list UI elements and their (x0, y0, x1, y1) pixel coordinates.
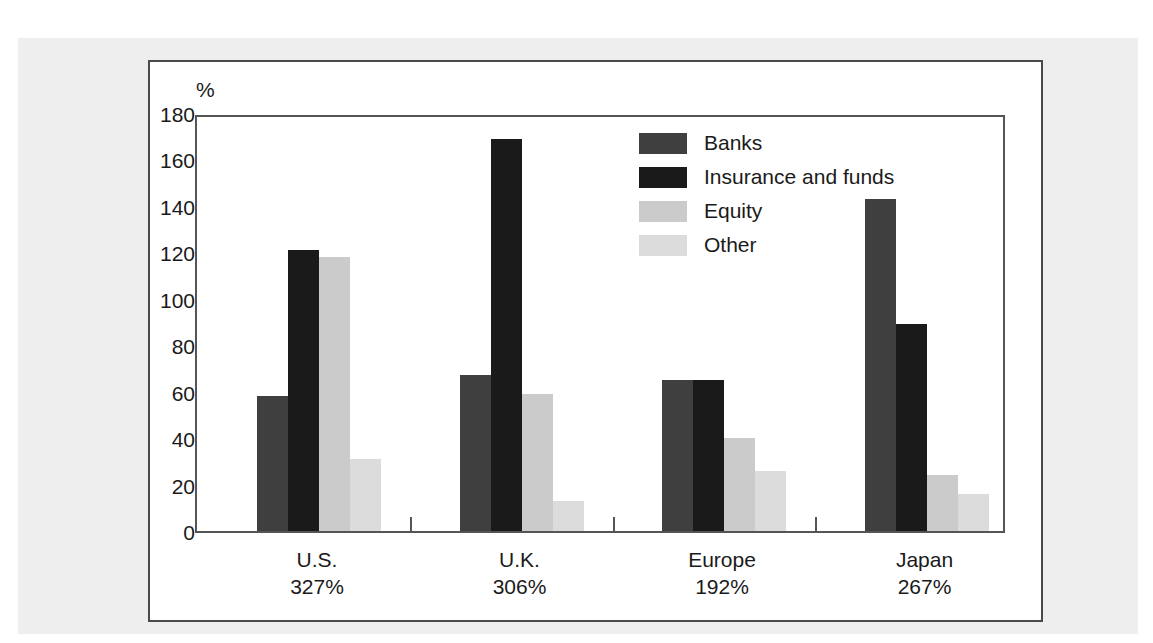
legend-item: Other (639, 228, 939, 262)
y-axis-tick-label: 40 (151, 428, 195, 452)
x-axis-separator-tick (613, 517, 615, 531)
y-axis-tick-label: 180 (151, 103, 195, 127)
legend-item: Banks (639, 126, 939, 160)
bar (522, 394, 553, 531)
y-axis-tick-label: 140 (151, 196, 195, 220)
bar (350, 459, 381, 531)
bar (288, 250, 319, 531)
bar (896, 324, 927, 531)
bar (319, 257, 350, 531)
x-axis-group-name: U.K. (430, 547, 610, 574)
bar (755, 471, 786, 531)
y-axis-tick-label: 160 (151, 149, 195, 173)
y-axis-tick-label: 0 (151, 521, 195, 545)
legend-label: Other (704, 233, 757, 257)
x-axis-separator-tick (410, 517, 412, 531)
x-axis-group-total: 192% (632, 574, 812, 601)
legend-item: Equity (639, 194, 939, 228)
bar (257, 396, 288, 531)
y-axis-unit-label: % (196, 78, 215, 102)
y-axis: 020406080100120140160180 (141, 115, 195, 533)
bar (724, 438, 755, 531)
legend-item: Insurance and funds (639, 160, 939, 194)
y-axis-tick-label: 20 (151, 475, 195, 499)
y-axis-tick-label: 80 (151, 335, 195, 359)
legend-swatch-icon (639, 133, 687, 154)
legend-swatch-icon (639, 201, 687, 222)
bar (927, 475, 958, 531)
page-background: % 020406080100120140160180 BanksInsuranc… (0, 0, 1153, 643)
x-axis-group-total: 306% (430, 574, 610, 601)
legend-label: Insurance and funds (704, 165, 894, 189)
chart-legend: BanksInsurance and fundsEquityOther (639, 126, 939, 262)
y-axis-tick-label: 120 (151, 242, 195, 266)
y-axis-tick-label: 100 (151, 289, 195, 313)
legend-swatch-icon (639, 167, 687, 188)
legend-label: Banks (704, 131, 762, 155)
x-axis-group-label: Japan267% (835, 547, 1015, 601)
legend-swatch-icon (639, 235, 687, 256)
legend-label: Equity (704, 199, 762, 223)
x-axis-group-label: U.S.327% (227, 547, 407, 601)
x-axis-separator-tick (815, 517, 817, 531)
bar (460, 375, 491, 531)
bar (958, 494, 989, 531)
x-axis-group-name: Japan (835, 547, 1015, 574)
bar (693, 380, 724, 531)
bar (662, 380, 693, 531)
x-axis-group-name: Europe (632, 547, 812, 574)
x-axis-group-total: 327% (227, 574, 407, 601)
x-axis-group-total: 267% (835, 574, 1015, 601)
x-axis-group-label: U.K.306% (430, 547, 610, 601)
x-axis-group-label: Europe192% (632, 547, 812, 601)
bar (553, 501, 584, 531)
bar (491, 139, 522, 531)
y-axis-tick-label: 60 (151, 382, 195, 406)
x-axis-group-name: U.S. (227, 547, 407, 574)
